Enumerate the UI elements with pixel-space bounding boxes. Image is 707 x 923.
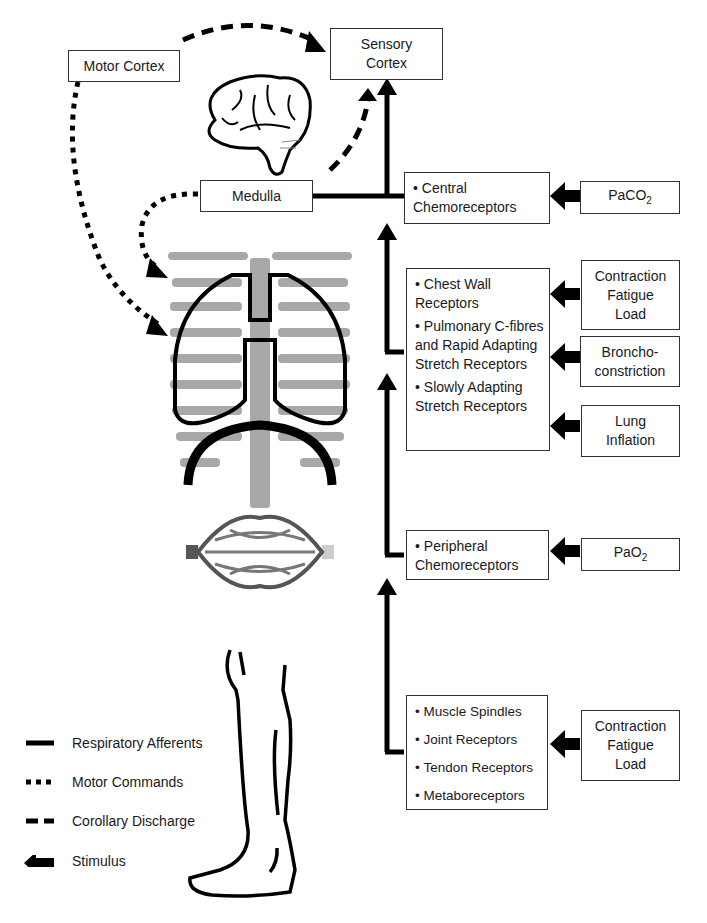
- paco2-label: PaCO2: [608, 186, 652, 210]
- dashed-line-icon: [22, 815, 56, 827]
- receptor-item: Tendon Receptors: [415, 758, 543, 777]
- receptor-item: Slowly Adapting Stretch Receptors: [415, 378, 545, 416]
- paco2-box: PaCO2: [580, 181, 680, 214]
- pao2-label: PaO2: [614, 543, 648, 567]
- limb-stimulus-label: Contraction Fatigue Load: [595, 717, 667, 774]
- receptor-item: Muscle Spindles: [415, 702, 543, 721]
- corollary-discharge-medulla-to-sensory: [330, 100, 368, 170]
- receptor-item: Joint Receptors: [415, 730, 543, 749]
- legend-item-motor-commands: Motor Commands: [22, 774, 183, 790]
- receptor-item: Central Chemoreceptors: [413, 179, 545, 217]
- lung-inflation-label: Lung Inflation: [606, 412, 655, 450]
- legend-item-stimulus: Stimulus: [22, 853, 126, 869]
- receptor-item: Peripheral Chemoreceptors: [415, 537, 544, 575]
- solid-line-icon: [22, 737, 56, 749]
- pao2-box: PaO2: [581, 538, 680, 571]
- sensory-cortex-label-2: Cortex: [366, 54, 407, 73]
- medulla-box: Medulla: [200, 180, 313, 212]
- sensory-cortex-label-1: Sensory: [361, 35, 412, 54]
- bronchoconstriction-label: Broncho- constriction: [595, 343, 666, 381]
- peripheral-chemoreceptors-box: Peripheral Chemoreceptors: [406, 530, 549, 580]
- stimulus-arrows: [550, 182, 580, 758]
- motor-cortex-label: Motor Cortex: [84, 57, 165, 76]
- medulla-label: Medulla: [232, 187, 281, 206]
- receptor-item: Pulmonary C-fibres and Rapid Adapting St…: [415, 317, 545, 374]
- leg-icon: [190, 650, 295, 896]
- motor-commands-cortex-to-chest: [72, 82, 160, 325]
- dotted-line-icon: [22, 776, 56, 788]
- chest-wall-stimulus-label: Contraction Fatigue Load: [595, 267, 667, 324]
- capillary-network-icon: [186, 517, 334, 588]
- legend-item-respiratory-afferents: Respiratory Afferents: [22, 735, 202, 751]
- ribcage-icon: [168, 252, 352, 508]
- receptor-item: Metaboreceptors: [415, 786, 543, 805]
- sensory-cortex-box: Sensory Cortex: [330, 28, 443, 80]
- limb-receptors-box: Muscle Spindles Joint Receptors Tendon R…: [406, 695, 548, 810]
- limb-stimulus-box: Contraction Fatigue Load: [581, 710, 680, 781]
- stimulus-arrow-icon: [22, 855, 56, 867]
- legend-item-corollary-discharge: Corollary Discharge: [22, 813, 195, 829]
- bronchoconstriction-box: Broncho- constriction: [580, 336, 680, 387]
- thoracic-receptors-box: Chest Wall Receptors Pulmonary C-fibres …: [406, 268, 550, 451]
- lung-inflation-box: Lung Inflation: [581, 405, 680, 457]
- corollary-discharge-motor-to-sensory: [183, 25, 318, 42]
- motor-cortex-box: Motor Cortex: [68, 50, 180, 82]
- brain-icon: [209, 76, 310, 175]
- receptor-item: Chest Wall Receptors: [415, 275, 545, 313]
- chest-wall-stimulus-box: Contraction Fatigue Load: [581, 260, 680, 330]
- central-chemoreceptors-box: Central Chemoreceptors: [404, 172, 550, 224]
